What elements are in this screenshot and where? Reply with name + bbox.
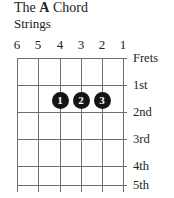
- finger-dot-1: 1: [52, 92, 69, 109]
- string-line-5: [38, 58, 39, 192]
- nut-line: [17, 58, 127, 59]
- finger-dot-2: 2: [73, 92, 90, 109]
- chord-diagram-fretboard: Frets1st2nd3rd4th5th123: [0, 0, 174, 198]
- fret-label-1st: 1st: [133, 78, 148, 92]
- fret-label-3rd: 3rd: [133, 132, 150, 146]
- frets-axis-label: Frets: [133, 51, 158, 65]
- string-line-4: [60, 58, 61, 192]
- fret-label-5th: 5th: [133, 178, 149, 192]
- fret-line-3: [17, 139, 127, 140]
- fret-line-5: [17, 185, 127, 186]
- string-line-6: [17, 58, 18, 192]
- finger-dot-3: 3: [94, 92, 111, 109]
- string-line-1: [123, 58, 124, 192]
- fret-line-1: [17, 85, 127, 86]
- fret-label-4th: 4th: [133, 159, 149, 173]
- string-line-3: [81, 58, 82, 192]
- fret-label-2nd: 2nd: [133, 105, 152, 119]
- fret-line-4: [17, 166, 127, 167]
- fret-line-2: [17, 112, 127, 113]
- string-line-2: [102, 58, 103, 192]
